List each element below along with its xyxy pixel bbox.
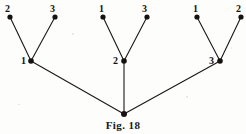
node-label-l1b: 3 [50, 4, 55, 14]
tree-edge-root-n1 [31, 61, 124, 114]
tree-node-n2 [121, 58, 127, 64]
node-label-l2a: 1 [99, 4, 104, 14]
tree-node-n3 [217, 58, 223, 64]
tree-node-l2a [100, 14, 105, 19]
tree-diagram-canvas [0, 0, 246, 134]
node-label-n3: 3 [209, 56, 214, 66]
node-label-l1a: 2 [5, 4, 10, 14]
scan-speck [18, 104, 20, 105]
tree-edge-n3-l3b [220, 17, 241, 61]
tree-node-l1a [7, 14, 12, 19]
figure-container: 123231312 Fig. 18 [0, 0, 246, 134]
tree-edge-n2-l2b [124, 17, 147, 61]
node-label-l2b: 3 [142, 4, 147, 14]
scan-speck [231, 47, 232, 49]
scan-speck [72, 33, 74, 35]
node-label-l3b: 2 [236, 4, 241, 14]
tree-node-l3b [238, 14, 243, 19]
tree-node-n1 [28, 58, 34, 64]
tree-node-l2b [144, 14, 149, 19]
node-label-n1: 1 [21, 56, 26, 66]
tree-node-l1b [52, 14, 57, 19]
edge-layer [10, 17, 241, 114]
tree-node-l3a [194, 14, 199, 19]
tree-edge-root-n3 [124, 61, 220, 114]
node-label-n2: 2 [113, 56, 118, 66]
tree-edge-n1-l1b [31, 17, 55, 61]
scan-speck [186, 96, 188, 98]
tree-node-root [121, 111, 127, 117]
figure-caption: Fig. 18 [0, 119, 246, 131]
node-label-l3a: 1 [193, 4, 198, 14]
